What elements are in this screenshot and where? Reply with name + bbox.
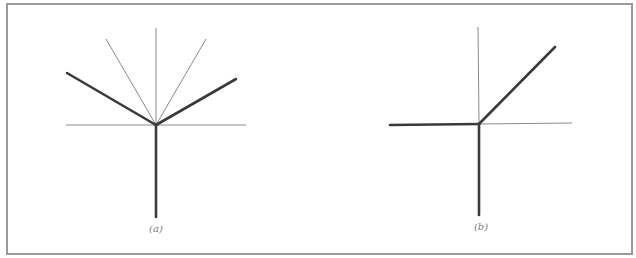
thin-ray-upper-left-line — [106, 39, 156, 125]
panel-b-diagram — [390, 27, 572, 215]
figure-canvas — [0, 0, 636, 258]
panel-a-diagram — [66, 28, 246, 217]
panel-b-caption: (b) — [461, 221, 501, 232]
vertical-axis-upper-line — [478, 27, 479, 124]
thick-diagonal-up-right-line — [479, 47, 555, 124]
thick-ray-left-line — [67, 73, 156, 125]
panel-a-caption: (a) — [136, 223, 176, 234]
thick-ray-right-line — [156, 79, 236, 125]
horizontal-axis-right-line — [479, 123, 572, 124]
thick-horizontal-left-line — [390, 124, 479, 125]
